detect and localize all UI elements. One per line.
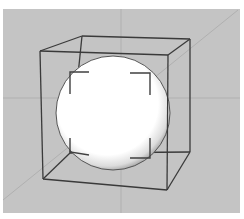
scene-canvas[interactable] — [0, 0, 244, 219]
3d-viewport[interactable] — [0, 0, 244, 219]
